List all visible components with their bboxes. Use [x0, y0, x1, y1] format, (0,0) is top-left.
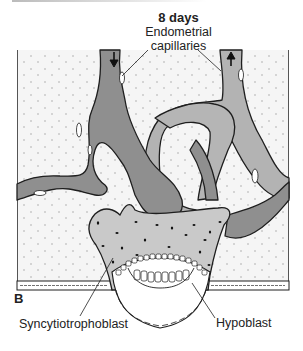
capillaries-label-line2: capillaries [54, 39, 303, 53]
capillaries-label-line1: Endometrial [54, 25, 303, 39]
stage-label: 8 days [54, 11, 303, 25]
syncytiotrophoblast-label: Syncytiotrophoblast [19, 317, 128, 331]
hypoblast-label: Hypoblast [216, 316, 272, 330]
panel-letter: B [14, 292, 23, 306]
figure-title: 8 days Endometrial capillaries [0, 11, 303, 53]
